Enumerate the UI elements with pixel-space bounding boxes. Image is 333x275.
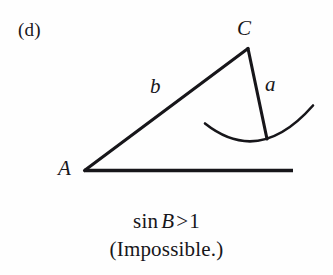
caption-equation: sinB>1 [0, 208, 333, 236]
caption-angle-variable: B [158, 209, 175, 233]
caption-value: 1 [189, 209, 200, 233]
vertex-label-a: A [58, 158, 71, 179]
caption-relation-operator: > [175, 209, 189, 233]
side-label-b: b [150, 76, 161, 97]
side-label-a: a [265, 74, 276, 95]
panel-label: (d) [18, 20, 41, 39]
caption-conclusion: (Impossible.) [0, 236, 333, 264]
caption-sine-function: sin [133, 209, 158, 233]
swing-arc [205, 106, 313, 142]
side-b-segment [85, 49, 249, 171]
caption-block: sinB>1 (Impossible.) [0, 208, 333, 263]
vertex-label-c: C [237, 18, 251, 39]
figure-container: (d) C A b a sinB>1 (Impossible.) [0, 0, 333, 275]
